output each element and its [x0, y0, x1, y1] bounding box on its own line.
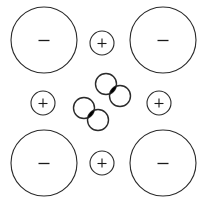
negative-node-top-right[interactable] [130, 7, 196, 73]
positive-node-middle-left[interactable] [31, 91, 55, 115]
negative-node-bottom-right[interactable] [130, 130, 196, 196]
positive-node-top-center[interactable] [90, 31, 114, 55]
cluster-pair-a[interactable] [96, 74, 131, 107]
cluster-pair-b[interactable] [74, 98, 109, 131]
cluster-group [74, 74, 131, 131]
positive-node-bottom-center[interactable] [90, 151, 114, 175]
diagram-canvas [0, 0, 203, 204]
positive-node-middle-right[interactable] [147, 91, 171, 115]
negative-node-bottom-left[interactable] [11, 130, 77, 196]
negative-node-top-left[interactable] [11, 7, 77, 73]
charge-arrangement-diagram [0, 0, 203, 204]
